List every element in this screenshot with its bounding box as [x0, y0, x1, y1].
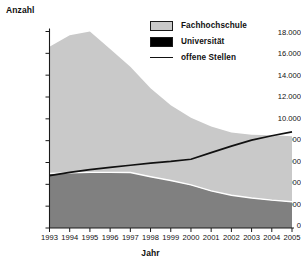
legend-label-offene-stellen: offene Stellen: [181, 53, 236, 62]
y-axis-ticks: [46, 32, 50, 229]
legend-item-fachhochschule: Fachhochschule: [150, 19, 247, 32]
legend-swatch-universitaet-icon: [150, 37, 173, 47]
legend-label-fachhochschule: Fachhochschule: [181, 21, 247, 30]
legend-item-universitaet: Universität: [150, 35, 247, 48]
legend-label-universitaet: Universität: [181, 37, 224, 46]
chart-legend: Fachhochschule Universität offene Stelle…: [150, 19, 247, 67]
x-axis-title: Jahr: [0, 248, 301, 258]
x-axis-ticks: [50, 228, 293, 232]
x-tick-label: 2005: [280, 233, 301, 242]
legend-swatch-fachhochschule-icon: [150, 21, 173, 31]
chart-container: Anzahl 18.000 16.000 14.000 12.000 10.00…: [0, 0, 301, 264]
legend-swatch-offene-stellen-icon: [150, 53, 173, 63]
legend-item-offene-stellen: offene Stellen: [150, 51, 247, 64]
